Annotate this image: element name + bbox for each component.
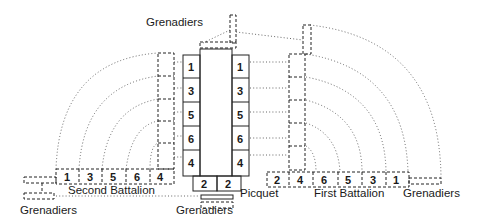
square-right-4: 6 [237, 133, 243, 145]
formation-diagram: Grenadiers 1 3 5 6 4 1 3 5 6 4 2 2 [0, 0, 482, 224]
first-battalion-column [289, 25, 311, 170]
second-line-1: 1 [64, 171, 70, 183]
grenadiers-bottom-left-label: Grenadiers [20, 204, 77, 216]
square-right-2: 3 [237, 85, 243, 97]
left-wheel-arcs [56, 53, 183, 169]
square-left-1: 1 [188, 61, 194, 73]
first-line-3: 6 [321, 174, 327, 186]
second-line-4: 6 [134, 171, 140, 183]
square-left-4: 6 [188, 133, 194, 145]
square-left-5: 4 [188, 157, 195, 169]
square-right-1: 1 [237, 61, 243, 73]
first-line-6: 1 [393, 174, 399, 186]
square-rear-1: 2 [201, 178, 207, 190]
grenadiers-top-label: Grenadiers [146, 16, 203, 28]
first-battalion-label: First Battalion [314, 187, 384, 199]
grenadiers-bottom-center-label: Grenadiers [176, 204, 233, 216]
first-line-1: 2 [274, 174, 280, 186]
second-battalion-label: Second Battalion [68, 184, 155, 196]
first-line-2: 4 [297, 174, 304, 186]
first-line-4: 5 [345, 174, 351, 186]
second-line-3: 5 [110, 171, 116, 183]
square-right-5: 4 [237, 157, 244, 169]
first-line-5: 3 [370, 174, 376, 186]
second-battalion-column [158, 53, 174, 169]
square-right-3: 5 [237, 109, 243, 121]
picquet-label: Picquet [240, 187, 279, 199]
square-left-2: 3 [188, 85, 194, 97]
grenadiers-top-block [200, 15, 236, 48]
second-line-2: 3 [87, 171, 93, 183]
square-rear-2: 2 [225, 178, 231, 190]
first-battalion-line [267, 172, 441, 187]
second-line-5: 4 [157, 171, 164, 183]
grenadiers-bottom-right-label: Grenadiers [403, 187, 460, 199]
square-left-3: 5 [188, 109, 194, 121]
